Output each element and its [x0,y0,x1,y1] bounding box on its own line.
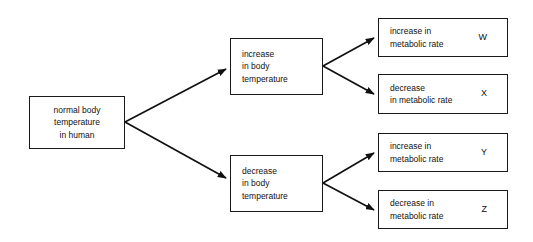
node-outcome-w-key: W [479,31,492,44]
arrow-root-to-increase-body-temperature [125,69,226,122]
arrow-decrease-to-outcome-z [323,183,374,210]
flowchart-diagram: normal body temperature in human increas… [0,0,533,242]
node-outcome-y: increase in metabolic rate Y [378,133,508,172]
node-increase-body-temperature-label: increase in body temperature [231,48,288,85]
node-decrease-body-temperature: decrease in body temperature [230,155,323,212]
node-increase-body-temperature: increase in body temperature [230,38,323,95]
node-outcome-w: increase in metabolic rate W [378,18,508,57]
arrow-increase-to-outcome-x [323,66,374,94]
node-outcome-y-text: increase in metabolic rate [390,140,443,165]
node-outcome-x: decrease in metabolic rate X [378,74,508,114]
node-decrease-body-temperature-label: decrease in body temperature [231,165,288,202]
node-outcome-z-key: Z [482,203,492,216]
arrow-root-to-decrease-body-temperature [125,122,226,178]
arrow-increase-to-outcome-w [323,38,374,66]
arrow-decrease-to-outcome-y [323,153,374,183]
node-outcome-z: decrease in metabolic rate Z [378,190,508,229]
node-outcome-w-text: increase in metabolic rate [390,25,443,50]
node-outcome-y-key: Y [481,146,491,159]
node-outcome-x-key: X [481,87,491,100]
node-outcome-x-text: decrease in metabolic rate [390,82,452,107]
node-outcome-z-text: decrease in metabolic rate [390,197,443,222]
node-normal-body-temperature: normal body temperature in human [29,96,125,149]
node-normal-body-temperature-label: normal body temperature in human [54,104,101,141]
